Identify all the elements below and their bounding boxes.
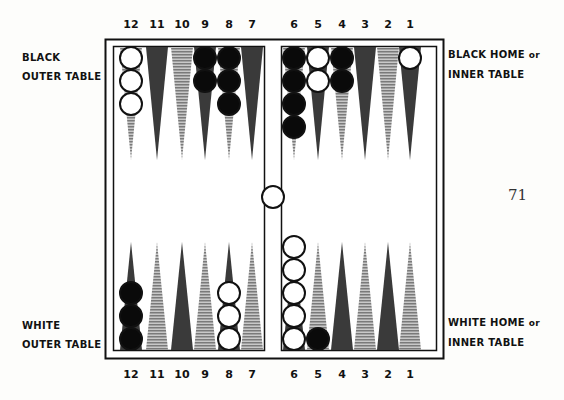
black-checker[interactable]	[283, 70, 305, 92]
white-checker[interactable]	[262, 186, 284, 208]
black-checker[interactable]	[307, 328, 329, 350]
black-checker[interactable]	[283, 93, 305, 115]
white-checker[interactable]	[120, 70, 142, 92]
white-checker[interactable]	[283, 305, 305, 327]
white-checker[interactable]	[120, 93, 142, 115]
black-checker[interactable]	[120, 305, 142, 327]
black-checker[interactable]	[218, 70, 240, 92]
white-checker[interactable]	[283, 328, 305, 350]
white-checker[interactable]	[399, 47, 421, 69]
black-checker[interactable]	[120, 328, 142, 350]
white-checker[interactable]	[120, 47, 142, 69]
white-checker[interactable]	[218, 328, 240, 350]
backgammon-board	[0, 0, 564, 400]
black-checker[interactable]	[331, 70, 353, 92]
white-checker[interactable]	[218, 282, 240, 304]
white-checker[interactable]	[283, 259, 305, 281]
black-checker[interactable]	[194, 70, 216, 92]
black-checker[interactable]	[194, 47, 216, 69]
black-checker[interactable]	[218, 93, 240, 115]
white-checker[interactable]	[307, 70, 329, 92]
white-checker[interactable]	[307, 47, 329, 69]
white-checker[interactable]	[283, 236, 305, 258]
black-checker[interactable]	[218, 47, 240, 69]
white-checker[interactable]	[283, 282, 305, 304]
black-checker[interactable]	[331, 47, 353, 69]
black-checker[interactable]	[283, 116, 305, 138]
white-checker[interactable]	[218, 305, 240, 327]
black-checker[interactable]	[283, 47, 305, 69]
black-checker[interactable]	[120, 282, 142, 304]
